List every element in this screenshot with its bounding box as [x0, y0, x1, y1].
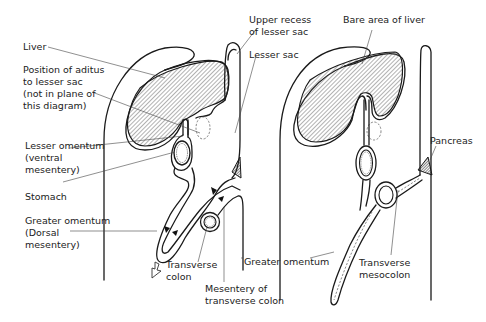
- aditus-outline: [196, 117, 210, 139]
- posterior-body-wall: [225, 43, 240, 178]
- label-greater-omentum-bottom: Greater omentum: [244, 256, 329, 268]
- leader-transverse-colon: [198, 227, 207, 262]
- label-aditus: Position of aditus to lesser sac (not in…: [23, 64, 104, 112]
- label-lesser-omentum: Lesser omentum (ventral mesentery): [25, 140, 105, 176]
- label-transverse-colon: Transverse colon: [166, 259, 217, 283]
- label-pancreas: Pancreas: [430, 135, 473, 147]
- lesser-omentum: [183, 120, 188, 137]
- arrow-icon: [218, 196, 224, 202]
- greater-omentum-right: [331, 205, 380, 305]
- label-greater-omentum: Greater omentum (Dorsal mesentery): [25, 215, 110, 251]
- label-mesentery-transverse-colon: Mesentery of transverse colon: [205, 283, 284, 307]
- label-lesser-sac: Lesser sac: [249, 49, 299, 61]
- down-arrow-icon: [152, 262, 161, 278]
- stomach-right-lining: [361, 152, 371, 174]
- liver-right: [298, 52, 403, 142]
- mesentery-transverse-colon: [218, 196, 243, 270]
- stomach-lining: [177, 144, 188, 163]
- greater-omentum-fusion: [334, 212, 372, 300]
- transverse-colon-outer: [201, 213, 220, 232]
- label-stomach: Stomach: [25, 191, 67, 203]
- transverse-colon-lining: [206, 218, 215, 227]
- pancreas: [232, 157, 241, 178]
- arrow-icon: [172, 230, 178, 236]
- stomach-stalk-right: [360, 180, 370, 210]
- stomach-right: [360, 150, 373, 176]
- label-transverse-mesocolon: Transverse mesocolon: [359, 257, 410, 281]
- label-liver: Liver: [23, 41, 46, 53]
- label-bare-area: Bare area of liver: [343, 14, 425, 26]
- upper-recess: [228, 49, 236, 60]
- label-upper-recess: Upper recess of lesser sac: [249, 14, 311, 38]
- transverse-mesocolon: [396, 175, 422, 198]
- liver: [128, 61, 229, 146]
- leader-lesser-sac: [235, 56, 256, 133]
- transverse-colon-right: [379, 186, 393, 204]
